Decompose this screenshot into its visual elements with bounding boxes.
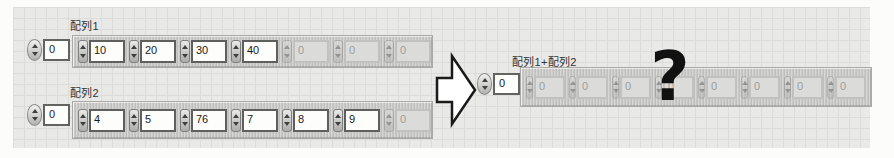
spinner-icon	[569, 76, 576, 99]
result-array-label: 配列1+配列2	[512, 53, 577, 69]
array1-index-value[interactable]: 0	[43, 39, 70, 61]
spinner-icon	[333, 40, 343, 63]
result-index-value[interactable]: 0	[493, 73, 520, 95]
array1-element-2[interactable]: 30	[180, 40, 231, 63]
spinner-icon	[741, 76, 748, 99]
array1-label: 配列1	[70, 17, 99, 33]
array2-element-4-value[interactable]: 8	[293, 109, 329, 132]
array2-element-1[interactable]: 5	[129, 109, 180, 132]
array1-element-2-value[interactable]: 30	[191, 40, 227, 63]
array1-element-3[interactable]: 40	[231, 40, 282, 63]
spinner-icon[interactable]	[27, 39, 42, 61]
spinner-icon	[612, 76, 619, 99]
right-arrow-icon	[435, 52, 477, 128]
spinner-icon	[282, 40, 292, 63]
result-element-7: 0	[827, 76, 870, 99]
increment-arrow-icon[interactable]	[482, 78, 488, 82]
array2-element-4[interactable]: 8	[282, 109, 333, 132]
spinner-icon[interactable]	[27, 104, 42, 126]
result-element-6: 0	[784, 76, 827, 99]
result-element-4-value: 0	[706, 76, 737, 99]
array1-element-4-value: 0	[293, 40, 329, 63]
spinner-icon[interactable]	[129, 40, 139, 63]
result-element-1: 0	[569, 76, 612, 99]
array2-element-2[interactable]: 76	[180, 109, 231, 132]
spinner-icon[interactable]	[282, 109, 292, 132]
question-mark-overlay: ?	[638, 40, 702, 114]
array2-element-1-value[interactable]: 5	[140, 109, 176, 132]
result-element-5-value: 0	[749, 76, 780, 99]
array2-element-6: 0	[384, 109, 435, 132]
spinner-icon	[384, 109, 394, 132]
array2-element-5[interactable]: 9	[333, 109, 384, 132]
array1-element-4: 0	[282, 40, 333, 63]
array2-element-0-value[interactable]: 4	[89, 109, 125, 132]
result-index-control[interactable]: 0	[477, 73, 520, 95]
result-element-1-value: 0	[577, 76, 608, 99]
spinner-icon[interactable]	[180, 109, 190, 132]
result-element-5: 0	[741, 76, 784, 99]
spinner-icon[interactable]	[129, 109, 139, 132]
spinner-icon	[384, 40, 394, 63]
decrement-arrow-icon[interactable]	[32, 117, 38, 121]
result-element-7-value: 0	[835, 76, 866, 99]
array1-element-6: 0	[384, 40, 435, 63]
array1-element-1-value[interactable]: 20	[140, 40, 176, 63]
result-element-0: 0	[526, 76, 569, 99]
spinner-icon[interactable]	[231, 40, 241, 63]
array1-element-5-value: 0	[344, 40, 380, 63]
array2-label: 配列2	[70, 84, 99, 100]
spinner-icon[interactable]	[231, 109, 241, 132]
array2-element-3-value[interactable]: 7	[242, 109, 278, 132]
result-element-4: 0	[698, 76, 741, 99]
result-element-6-value: 0	[792, 76, 823, 99]
array2-element-0[interactable]: 4	[78, 109, 129, 132]
decrement-arrow-icon[interactable]	[32, 52, 38, 56]
spinner-icon[interactable]	[477, 73, 492, 95]
array2-index-control[interactable]: 0	[27, 104, 70, 126]
spinner-icon[interactable]	[180, 40, 190, 63]
array2-container: 4 5 76 7 8 9 0	[72, 101, 433, 139]
array1-element-0-value[interactable]: 10	[89, 40, 125, 63]
spinner-icon[interactable]	[333, 109, 343, 132]
array1-element-3-value[interactable]: 40	[242, 40, 278, 63]
array2-element-3[interactable]: 7	[231, 109, 282, 132]
array2-element-6-value: 0	[395, 109, 431, 132]
array2-element-2-value[interactable]: 76	[191, 109, 227, 132]
spinner-icon	[827, 76, 834, 99]
labview-front-panel: 配列1 0 10 20 30 40 0 0 0 配列2 0 4 5 76 7 8…	[0, 0, 894, 158]
array1-element-6-value: 0	[395, 40, 431, 63]
array1-element-0[interactable]: 10	[78, 40, 129, 63]
increment-arrow-icon[interactable]	[32, 109, 38, 113]
array2-element-5-value[interactable]: 9	[344, 109, 380, 132]
spinner-icon[interactable]	[78, 40, 88, 63]
array1-index-control[interactable]: 0	[27, 39, 70, 61]
array1-container: 10 20 30 40 0 0 0	[72, 35, 433, 68]
decrement-arrow-icon[interactable]	[482, 86, 488, 90]
spinner-icon	[784, 76, 791, 99]
result-element-0-value: 0	[534, 76, 565, 99]
spinner-icon[interactable]	[78, 109, 88, 132]
increment-arrow-icon[interactable]	[32, 44, 38, 48]
array2-index-value[interactable]: 0	[43, 104, 70, 126]
array1-element-5: 0	[333, 40, 384, 63]
array1-element-1[interactable]: 20	[129, 40, 180, 63]
spinner-icon	[526, 76, 533, 99]
